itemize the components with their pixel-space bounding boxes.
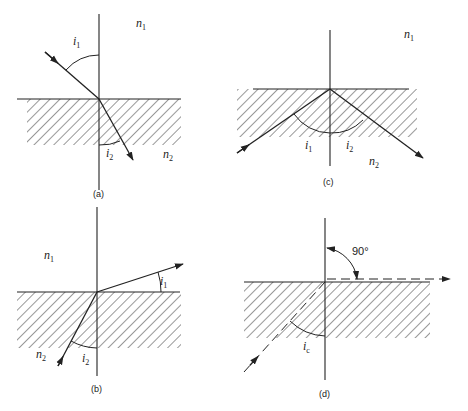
label-n2: n2 xyxy=(163,147,173,163)
medium-n2-hatch xyxy=(27,99,181,145)
incident-ray-arrow xyxy=(58,357,63,367)
label-i1: i1 xyxy=(73,34,80,50)
label-i1: i1 xyxy=(305,138,312,154)
label-n2: n2 xyxy=(369,154,379,170)
label-i1: i1 xyxy=(160,274,167,290)
label-i2: i2 xyxy=(82,351,89,367)
caption-a: (a) xyxy=(93,189,104,199)
label-n1: n1 xyxy=(44,248,54,264)
label-n1: n1 xyxy=(136,16,146,32)
incident-ray-arrow xyxy=(237,145,249,153)
incident-ray-arrow xyxy=(45,52,58,63)
refracted-ray xyxy=(97,264,183,292)
label-ic: ic xyxy=(303,339,310,355)
caption-c: (c) xyxy=(323,177,334,187)
refraction-diagram: i1 n1 i2 n2 (a) n1 i1 i2 n2 (c) xyxy=(0,0,468,411)
medium-n2-hatch xyxy=(244,282,430,338)
caption-b: (b) xyxy=(91,384,102,394)
label-n1: n1 xyxy=(404,27,414,43)
caption-d: (d) xyxy=(319,389,330,399)
label-90-degrees: 90° xyxy=(352,245,369,257)
panel-b: n1 i1 n2 i2 (b) xyxy=(17,207,183,394)
incident-ray-arrow xyxy=(250,357,258,366)
medium-n2-hatch xyxy=(17,292,181,348)
angle-arc-i1 xyxy=(66,55,99,70)
panel-c: n1 i1 i2 n2 (c) xyxy=(237,27,423,187)
label-i2: i2 xyxy=(346,138,353,154)
panel-d: 90° ic (d) xyxy=(244,218,450,399)
label-n2: n2 xyxy=(36,347,46,363)
label-i2: i2 xyxy=(106,146,113,162)
panel-a: i1 n1 i2 n2 (a) xyxy=(17,14,181,199)
medium-n2-hatch xyxy=(237,89,417,137)
